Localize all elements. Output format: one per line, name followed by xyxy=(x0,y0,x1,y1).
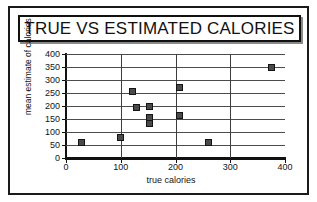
y-axis-title: mean estimate of calories xyxy=(23,19,33,115)
y-tick-label: 200 xyxy=(45,101,60,111)
axes: 050100150200250300350400 0100200300400 xyxy=(66,54,285,158)
x-tick-label: 400 xyxy=(277,162,292,172)
figure-frame: TRUE VS ESTIMATED CALORIES mean estimate… xyxy=(8,6,309,195)
data-point xyxy=(146,120,153,127)
y-tick-label: 100 xyxy=(45,127,60,137)
y-tick-label: 400 xyxy=(45,49,60,59)
x-tick-label: 0 xyxy=(63,162,68,172)
gridline-vertical xyxy=(176,54,177,158)
plot-area: mean estimate of calories 05010015020025… xyxy=(10,44,307,193)
data-point xyxy=(129,88,136,95)
y-tick-label: 150 xyxy=(45,114,60,124)
y-tick-mark xyxy=(62,119,66,120)
gridline-vertical xyxy=(230,54,231,158)
data-point xyxy=(78,139,85,146)
y-tick-label: 250 xyxy=(45,88,60,98)
x-axis-title: true calories xyxy=(56,175,286,185)
chart-title: TRUE VS ESTIMATED CALORIES xyxy=(24,20,294,37)
chart-title-box: TRUE VS ESTIMATED CALORIES xyxy=(18,15,301,42)
y-tick-label: 350 xyxy=(45,62,60,72)
x-tick-label: 300 xyxy=(223,162,238,172)
x-tick-label: 200 xyxy=(168,162,183,172)
y-tick-mark xyxy=(62,132,66,133)
data-point xyxy=(205,139,212,146)
y-tick-mark xyxy=(62,93,66,94)
x-tick-label: 100 xyxy=(113,162,128,172)
y-tick-mark xyxy=(62,54,66,55)
data-point xyxy=(146,103,153,110)
gridline-vertical xyxy=(121,54,122,158)
y-tick-label: 300 xyxy=(45,75,60,85)
data-point xyxy=(117,134,124,141)
y-tick-mark xyxy=(62,145,66,146)
data-point xyxy=(176,112,183,119)
data-point xyxy=(268,64,275,71)
data-point xyxy=(176,84,183,91)
y-tick-mark xyxy=(62,67,66,68)
data-point xyxy=(133,104,140,111)
y-tick-label: 0 xyxy=(55,153,60,163)
y-tick-mark xyxy=(62,80,66,81)
y-tick-mark xyxy=(62,106,66,107)
y-tick-label: 50 xyxy=(50,140,60,150)
